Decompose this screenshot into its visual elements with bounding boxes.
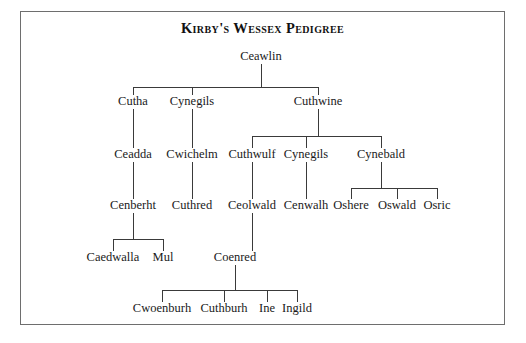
node-layer: CeawlinCuthaCynegilsCuthwineCeaddaCwiche… [87, 49, 451, 315]
pedigree-node-cynebald: Cynebald [357, 147, 406, 161]
pedigree-node-cuthwulf: Cuthwulf [228, 147, 276, 161]
pedigree-node-cynegils2: Cynegils [284, 147, 329, 161]
pedigree-node-cuthwine: Cuthwine [294, 94, 343, 108]
pedigree-node-cwichelm: Cwichelm [166, 147, 218, 161]
pedigree-node-caedwalla: Caedwalla [87, 250, 140, 264]
pedigree-node-cenwalh: Cenwalh [284, 198, 329, 212]
pedigree-node-mul: Mul [153, 250, 174, 264]
pedigree-node-cutha: Cutha [118, 94, 148, 108]
pedigree-node-ceolwald: Ceolwald [228, 198, 277, 212]
pedigree-tree: CeawlinCuthaCynegilsCuthwineCeaddaCwiche… [0, 0, 526, 343]
pedigree-node-oswald: Oswald [378, 198, 417, 212]
pedigree-node-coenred: Coenred [214, 250, 257, 264]
pedigree-node-ceawlin: Ceawlin [240, 49, 282, 63]
edge-layer [113, 64, 437, 302]
pedigree-node-ingild: Ingild [282, 301, 313, 315]
pedigree-node-cuthburh: Cuthburh [200, 301, 248, 315]
pedigree-page: Kirby's Wessex Pedigree CeawlinCuthaCyne… [0, 0, 526, 343]
pedigree-node-cenberht: Cenberht [110, 198, 156, 212]
pedigree-node-cynegils1: Cynegils [170, 94, 215, 108]
pedigree-node-cwoenburh: Cwoenburh [133, 301, 192, 315]
pedigree-node-ine: Ine [259, 301, 275, 315]
pedigree-node-osric: Osric [423, 198, 451, 212]
pedigree-node-ceadda: Ceadda [114, 147, 152, 161]
pedigree-node-cuthred: Cuthred [172, 198, 213, 212]
pedigree-node-oshere: Oshere [333, 198, 369, 212]
